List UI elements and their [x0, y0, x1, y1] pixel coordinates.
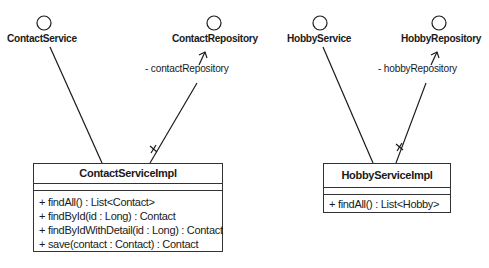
interface-hobby-repository: HobbyRepository: [401, 32, 481, 44]
operation: + save(contact : Contact) : Contact: [39, 237, 217, 251]
interface-circle-icon: [313, 16, 327, 30]
interface-circle-icon: [207, 16, 221, 30]
interface-hobby-service: HobbyService: [287, 32, 351, 44]
class-name: ContactServiceImpl: [34, 164, 222, 184]
operation: + findByIdWithDetail(id : Long) : Contac…: [39, 223, 217, 237]
class-attributes: [34, 184, 222, 191]
multiplicity-star-icon: [150, 145, 157, 153]
association-role-hobby-repository: - hobbyRepository: [378, 62, 457, 74]
class-attributes: [324, 188, 450, 195]
class-contact-service-impl: ContactServiceImpl + findAll() : List<Co…: [33, 163, 223, 252]
class-operations: + findAll() : List<Contact> + findById(i…: [34, 191, 222, 256]
class-name: HobbyServiceImpl: [324, 164, 450, 188]
interface-circle-icon: [432, 16, 446, 30]
interface-contact-service: ContactService: [7, 32, 77, 44]
class-hobby-service-impl: HobbyServiceImpl + findAll() : List<Hobb…: [323, 163, 451, 213]
interface-contact-repository: ContactRepository: [172, 32, 258, 44]
operation: + findById(id : Long) : Contact: [39, 209, 217, 223]
operation: + findAll() : List<Contact>: [39, 195, 217, 209]
class-operations: + findAll() : List<Hobby>: [324, 195, 450, 216]
operation: + findAll() : List<Hobby>: [329, 197, 445, 211]
association-role-contact-repository: - contactRepository: [145, 62, 229, 74]
interface-circle-icon: [37, 16, 51, 30]
